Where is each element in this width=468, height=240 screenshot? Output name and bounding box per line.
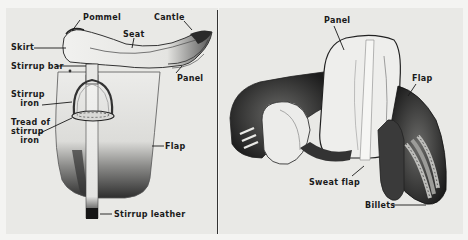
label-sweat-flap: Sweat flap xyxy=(309,178,360,187)
label-tread-of-stirrup-iron: Tread of stirrup iron xyxy=(11,118,50,145)
label-stirrup-iron: Stirrup iron xyxy=(11,90,45,108)
saddle-underside-illustration xyxy=(0,0,468,240)
label-skirt: Skirt xyxy=(11,43,34,52)
label-panel-left: Panel xyxy=(177,74,203,83)
label-seat: Seat xyxy=(123,30,145,39)
label-flap-right: Flap xyxy=(412,74,433,83)
label-cantle: Cantle xyxy=(154,13,185,22)
saddle-diagram: Pommel Cantle Seat Skirt Stirrup bar Pan… xyxy=(0,0,468,240)
label-stirrup-bar: Stirrup bar xyxy=(11,62,64,71)
label-panel-right: Panel xyxy=(324,16,350,25)
label-flap-left: Flap xyxy=(165,142,186,151)
label-stirrup-leather: Stirrup leather xyxy=(114,210,185,219)
label-billets: Billets xyxy=(365,201,395,210)
label-pommel: Pommel xyxy=(83,13,121,22)
